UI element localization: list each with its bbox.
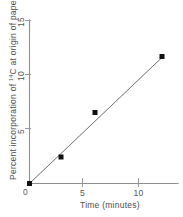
x-tick-label-10: 10 [134,188,144,198]
trend-line [30,57,164,184]
data-point-3 [160,54,165,59]
scatter-plot: 15 10 5 0 5 10 Time (minutes) Percent in… [0,0,183,217]
data-point-1 [59,155,64,160]
y-axis-title-prefix: Percent incorporation of [8,81,18,180]
svg-text:Percent incorporation of 14C a: Percent incorporation of 14C at origin o… [8,0,18,180]
y-axis-title-suffix: C at origin of paper [8,0,18,74]
y-axis-title-superscript: 14 [8,74,14,81]
data-point-2 [93,110,98,115]
x-tick-label-5: 5 [80,188,85,198]
chart-figure: 15 10 5 0 5 10 Time (minutes) Percent in… [0,0,183,217]
x-axis-title: Time (minutes) [80,200,140,210]
data-point-0 [27,181,32,186]
origin-tick-label-0: 0 [23,187,28,197]
y-axis-title: Percent incorporation of 14C at origin o… [8,0,18,180]
x-axis-ticks [83,178,139,187]
